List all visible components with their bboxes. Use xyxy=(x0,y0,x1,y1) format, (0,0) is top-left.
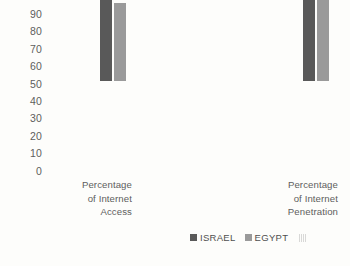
legend-item-israel[interactable]: ISRAEL xyxy=(190,232,236,243)
legend-item-egypt[interactable]: EGYPT xyxy=(245,232,289,243)
bar-layer xyxy=(0,0,350,180)
legend-swatch-icon xyxy=(245,234,252,241)
legend-label: EGYPT xyxy=(255,232,289,243)
category-label-line: of Internet xyxy=(36,192,132,206)
legend-swatch-icon xyxy=(190,234,197,241)
plot-area: 90 80 70 60 50 40 30 20 10 0 xyxy=(0,0,350,180)
category-label-penetration: Percentage of Internet Penetration xyxy=(238,178,338,219)
bar-chart: 90 80 70 60 50 40 30 20 10 0 Percentage … xyxy=(0,0,350,266)
bar-israel-penetration[interactable] xyxy=(303,0,315,81)
bar-egypt-penetration[interactable] xyxy=(317,0,329,81)
category-label-line: Percentage xyxy=(238,178,338,192)
legend: ISRAEL EGYPT xyxy=(190,232,306,243)
bar-israel-access[interactable] xyxy=(100,0,112,81)
category-label-line: of Internet xyxy=(238,192,338,206)
scan-artifact xyxy=(299,234,306,242)
category-label-line: Penetration xyxy=(238,205,338,219)
bar-egypt-access[interactable] xyxy=(114,3,126,81)
category-label-line: Percentage xyxy=(36,178,132,192)
category-label-access: Percentage of Internet Access xyxy=(36,178,132,219)
category-label-line: Access xyxy=(36,205,132,219)
legend-label: ISRAEL xyxy=(200,232,236,243)
